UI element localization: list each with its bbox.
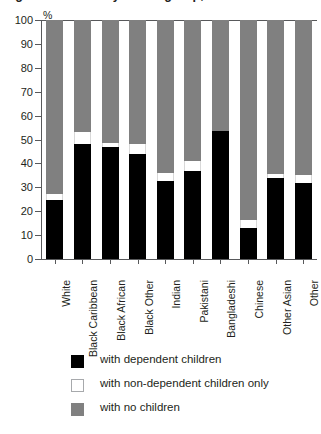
bar-segment-no-children [46, 20, 63, 194]
bar-segment-no-children [267, 20, 284, 174]
y-axis-tick-label: 40 [3, 158, 33, 168]
bar-segment-no-children [102, 20, 119, 143]
x-axis-tick [82, 260, 83, 264]
x-axis-category-label: Pakistani [198, 280, 210, 323]
chart-legend: with dependent childrenwith non-dependen… [0, 352, 321, 424]
stacked-bar[interactable] [212, 20, 229, 259]
x-axis-category-label: Chinese [253, 280, 265, 319]
bar-segment-non-dependent-children [74, 132, 91, 144]
y-axis-tick-label: 20 [3, 206, 33, 216]
y-axis-tick [35, 163, 41, 164]
chart-plot-area: 1009080706050403020100 % WhiteBlack Cari… [0, 11, 321, 266]
bar-segment-no-children [129, 20, 146, 144]
stacked-bar[interactable] [102, 20, 119, 259]
y-axis-tick [35, 20, 41, 21]
legend-swatch-white-swatch [71, 379, 84, 392]
y-axis-line [41, 20, 42, 260]
stacked-bar[interactable] [46, 20, 63, 259]
bar-segment-non-dependent-children [157, 173, 174, 181]
y-axis-tick-label: 60 [3, 111, 33, 121]
bar-segment-no-children [157, 20, 174, 173]
page-title: Figure: Families by ethnic group, 2001 [4, 0, 236, 2]
bar-segment-no-children [74, 20, 91, 132]
x-axis-tick [55, 260, 56, 264]
x-axis-tick [138, 260, 139, 264]
stacked-bar[interactable] [74, 20, 91, 259]
bar-segment-non-dependent-children [129, 144, 146, 154]
x-axis-tick [165, 260, 166, 264]
bar-segment-dependent-children [184, 171, 201, 259]
y-axis-tick-label: 0 [3, 254, 33, 264]
x-axis-category-label: Other Asian [281, 280, 293, 335]
bar-segment-no-children [212, 20, 229, 131]
bar-segment-dependent-children [46, 200, 63, 259]
bar-segment-dependent-children [267, 178, 284, 259]
x-axis-tick [303, 260, 304, 264]
x-axis-category-label: White [60, 280, 72, 307]
bar-segment-no-children [240, 20, 257, 220]
x-axis-category-label: Indian [170, 280, 182, 309]
stacked-bar[interactable] [240, 20, 257, 259]
x-axis-category-label: Other [308, 280, 320, 306]
bar-segment-dependent-children [102, 147, 119, 259]
legend-swatch-black-swatch [71, 355, 84, 368]
legend-label: with non-dependent children only [100, 377, 269, 389]
x-axis-category-label: Black Caribbean [87, 280, 99, 357]
legend-label: with no children [100, 401, 180, 413]
x-axis-category-label: Black Other [143, 280, 155, 335]
stacked-bar[interactable] [267, 20, 284, 259]
bar-segment-dependent-children [240, 228, 257, 259]
x-axis-tick [276, 260, 277, 264]
bar-segment-dependent-children [157, 181, 174, 259]
stacked-bar[interactable] [157, 20, 174, 259]
stacked-bar[interactable] [129, 20, 146, 259]
stacked-bar[interactable] [295, 20, 312, 259]
x-axis-category-label: Black African [115, 280, 127, 341]
y-axis-tick [35, 68, 41, 69]
y-axis-tick [35, 211, 41, 212]
bar-segment-dependent-children [129, 154, 146, 259]
y-axis-tick [35, 140, 41, 141]
x-axis-category-label: Bangladeshi [225, 280, 237, 338]
bar-segment-dependent-children [212, 131, 229, 259]
y-axis-tick [35, 116, 41, 117]
y-axis-tick-label: 10 [3, 230, 33, 240]
x-axis-tick [110, 260, 111, 264]
y-axis-tick-label: 30 [3, 182, 33, 192]
legend-item[interactable]: with dependent children [0, 352, 321, 376]
legend-item[interactable]: with non-dependent children only [0, 376, 321, 400]
bar-segment-non-dependent-children [184, 161, 201, 171]
y-axis-tick-label: 50 [3, 135, 33, 145]
y-axis-tick [35, 92, 41, 93]
bar-segment-non-dependent-children [240, 220, 257, 228]
bar-segment-no-children [184, 20, 201, 161]
y-axis-tick [35, 235, 41, 236]
bar-segment-non-dependent-children [295, 175, 312, 182]
stacked-bar[interactable] [184, 20, 201, 259]
x-axis-tick [193, 260, 194, 264]
legend-item[interactable]: with no children [0, 400, 321, 424]
bar-segment-dependent-children [295, 183, 312, 259]
x-axis-tick [220, 260, 221, 264]
y-axis-tick-label: 80 [3, 63, 33, 73]
y-axis-tick [35, 259, 41, 260]
y-axis-tick-label: 100 [3, 15, 33, 25]
y-axis-tick-label: 90 [3, 39, 33, 49]
bar-segment-no-children [295, 20, 312, 175]
y-axis-labels: 1009080706050403020100 [0, 11, 33, 266]
y-axis-tick-label: 70 [3, 87, 33, 97]
legend-label: with dependent children [100, 353, 221, 365]
x-axis-tick [248, 260, 249, 264]
legend-swatch-gray-swatch [71, 403, 84, 416]
y-axis-tick [35, 187, 41, 188]
bar-segment-dependent-children [74, 144, 91, 259]
y-axis-tick [35, 44, 41, 45]
